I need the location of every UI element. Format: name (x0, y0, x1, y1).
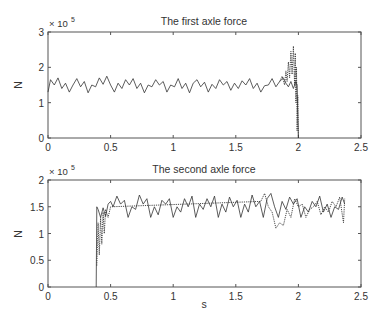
plot-area: 00.511.522.500.511.52 (30, 175, 368, 302)
x-axis-label: s (201, 298, 206, 310)
y-tick-label: 2 (38, 175, 44, 186)
subplot-second-axle: The second axle force × 10 5 N s 00.511.… (12, 163, 368, 310)
y-axis-label: N (12, 81, 24, 89)
x-tick-label: 1 (170, 291, 176, 302)
svg-text:× 10: × 10 (49, 166, 68, 177)
x-tick-label: 2.5 (354, 291, 368, 302)
axes-frame (48, 180, 361, 287)
x-tick-label: 0.5 (104, 142, 118, 153)
series-solid (96, 193, 345, 287)
series-dotted (97, 193, 345, 265)
y-exponent: × 10 5 (49, 16, 75, 29)
y-tick-label: 0 (38, 133, 44, 144)
x-tick-label: 0 (45, 142, 51, 153)
y-tick-label: 0.5 (30, 255, 44, 266)
axes-frame (48, 32, 361, 138)
x-tick-label: 1.5 (229, 291, 243, 302)
y-axis-label: N (12, 230, 24, 238)
series-solid (48, 76, 298, 138)
y-tick-label: 1.5 (30, 202, 44, 213)
plot-area: 00.511.522.50123 (38, 27, 368, 153)
y-tick-label: 2 (38, 62, 44, 73)
subplot-first-axle: The first axle force × 10 5 N 00.511.522… (12, 15, 368, 153)
y-tick-label: 0 (38, 282, 44, 293)
x-tick-label: 2 (296, 142, 302, 153)
chart-title: The first axle force (161, 15, 248, 27)
svg-text:5: 5 (71, 16, 75, 23)
x-tick-label: 0 (45, 291, 51, 302)
x-tick-label: 1 (170, 142, 176, 153)
svg-text:× 10: × 10 (49, 18, 68, 29)
series-dotted (280, 46, 299, 138)
x-tick-label: 0.5 (104, 291, 118, 302)
y-tick-label: 3 (38, 27, 44, 38)
y-tick-label: 1 (38, 98, 44, 109)
x-tick-label: 2 (296, 291, 302, 302)
x-tick-label: 1.5 (229, 142, 243, 153)
x-tick-label: 2.5 (354, 142, 368, 153)
y-tick-label: 1 (38, 229, 44, 240)
svg-text:5: 5 (71, 164, 75, 171)
chart-title: The second axle force (152, 163, 255, 175)
figure: The first axle force × 10 5 N 00.511.522… (0, 0, 382, 321)
y-exponent: × 10 5 (49, 164, 75, 177)
